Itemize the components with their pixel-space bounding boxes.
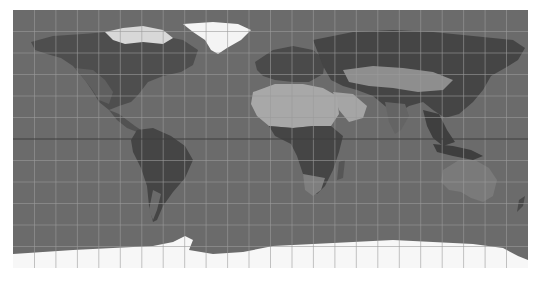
world-map[interactable] [13, 10, 528, 268]
landmass-africa-sahara [251, 84, 339, 128]
map-canvas [13, 10, 528, 268]
